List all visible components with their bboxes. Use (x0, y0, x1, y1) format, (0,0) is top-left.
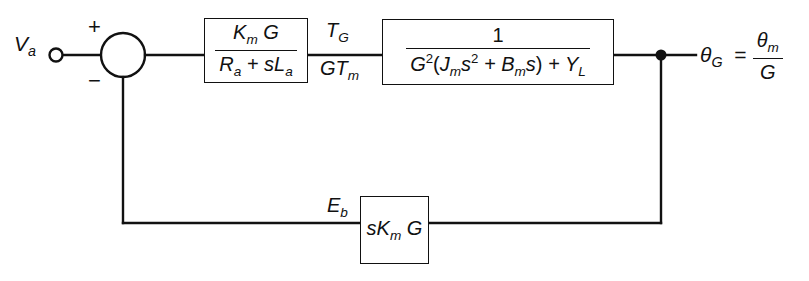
summing-minus-sign: − (88, 70, 101, 92)
output-angle-label: θG = θm G (700, 30, 783, 83)
load-fraction: 1 G2(Jms2 + Bms) + YL (406, 25, 590, 80)
input-signal-label: Va (14, 33, 36, 58)
output-equals: = (728, 43, 752, 66)
output-variable: θ (700, 43, 711, 66)
summing-plus-sign: + (88, 16, 101, 38)
feedback-takeoff-node (656, 50, 667, 61)
gear-torque-signal-label: GTm (320, 58, 359, 83)
load-block-expression: 1 G2(Jms2 + Bms) + YL (406, 25, 590, 80)
output-subscript: G (711, 54, 722, 70)
motor-transfer-function-block[interactable]: Km G Ra + sLa (204, 18, 308, 83)
motor-fraction: Km G Ra + sLa (215, 22, 297, 79)
motor-numerator: Km G (215, 22, 297, 50)
block-diagram-canvas: Va + − Km G Ra + sLa TG GTm 1 G2(Jms2 + … (0, 0, 809, 281)
back-emf-signal-label: Eb (327, 195, 348, 220)
load-transfer-function-block[interactable]: 1 G2(Jms2 + Bms) + YL (382, 19, 614, 85)
load-numerator: 1 (406, 25, 590, 49)
input-label-text: V (14, 32, 28, 55)
input-terminal-circle (50, 49, 63, 62)
motor-denominator: Ra + sLa (215, 50, 297, 80)
output-numerator: θm (753, 30, 783, 58)
back-emf-feedback-block[interactable]: sKm G (360, 196, 429, 264)
load-denominator: G2(Jms2 + Bms) + YL (406, 48, 590, 79)
feedback-block-expression: sKm G (367, 217, 423, 243)
output-denominator: G (753, 58, 783, 84)
summing-junction-circle (101, 33, 145, 77)
motor-block-expression: Km G Ra + sLa (215, 22, 297, 79)
torque-signal-label: TG (326, 20, 349, 45)
input-label-subscript: a (28, 43, 36, 59)
output-fraction: θm G (753, 30, 783, 83)
